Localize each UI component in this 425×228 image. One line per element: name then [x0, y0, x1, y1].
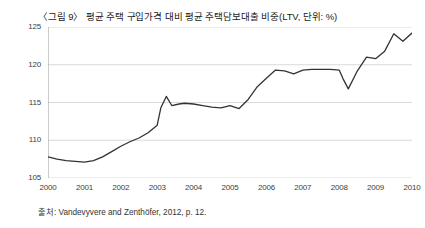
y-axis-tick-label: 110: [19, 135, 41, 144]
y-axis-tick-label: 115: [19, 98, 41, 107]
y-axis-tick-label: 120: [19, 60, 41, 69]
gridlines: [48, 27, 412, 178]
x-axis-tick-label: 2001: [67, 183, 101, 192]
x-axis-tick-label: 2007: [286, 183, 320, 192]
x-axis-tick-label: 2008: [322, 183, 356, 192]
chart-title: 〈그림 9〉 평균 주택 구입가격 대비 평균 주택담보대출 비중(LTV, 단…: [38, 9, 337, 23]
line-chart-svg: [48, 27, 412, 178]
plot-area: [48, 27, 412, 178]
x-axis-tick-label: 2000: [31, 183, 65, 192]
x-axis-tick-label: 2003: [140, 183, 174, 192]
source-note: 출처: Vandevyvere and Zenthöfer, 2012, p. …: [38, 205, 206, 217]
x-axis-tick-label: 2006: [249, 183, 283, 192]
y-axis-tick-label: 105: [19, 173, 41, 182]
figure-container: 〈그림 9〉 평균 주택 구입가격 대비 평균 주택담보대출 비중(LTV, 단…: [0, 0, 425, 228]
x-axis-tick-label: 2010: [395, 183, 425, 192]
x-axis-tick-label: 2002: [104, 183, 138, 192]
x-axis-tick-label: 2005: [213, 183, 247, 192]
x-axis-tick-label: 2004: [177, 183, 211, 192]
x-axis-tick-label: 2009: [359, 183, 393, 192]
y-axis-tick-label: 125: [19, 22, 41, 31]
data-series-ltv: [48, 33, 412, 162]
